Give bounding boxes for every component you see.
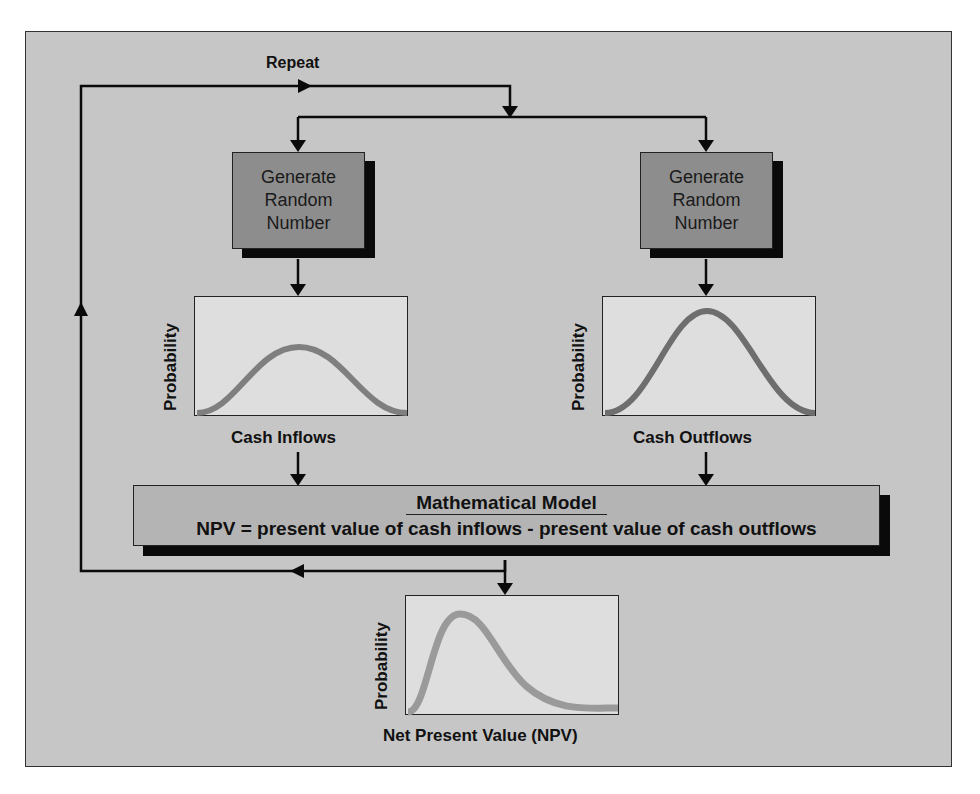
generator-line: Random [672, 189, 740, 212]
generate-random-number-box-outflows: Generate Random Number [640, 152, 773, 249]
normal-curve-icon [195, 297, 409, 417]
inflows-y-label: Probability [161, 323, 181, 411]
skewed-curve-icon [406, 596, 620, 716]
generator-line: Number [266, 212, 330, 235]
outflows-y-label: Probability [569, 323, 589, 411]
generator-line: Generate [669, 166, 744, 189]
repeat-label: Repeat [266, 54, 319, 72]
model-equation: NPV = present value of cash inflows - pr… [134, 517, 879, 541]
mathematical-model-box: Mathematical Model NPV = present value o… [133, 485, 880, 546]
generator-line: Generate [261, 166, 336, 189]
cash-outflows-distribution [602, 296, 816, 416]
outflows-x-label: Cash Outflows [633, 428, 752, 448]
npv-distribution [405, 595, 619, 715]
npv-x-label: Net Present Value (NPV) [383, 726, 578, 746]
npv-y-label: Probability [372, 622, 392, 710]
generator-line: Number [674, 212, 738, 235]
model-title: Mathematical Model [406, 492, 607, 515]
generate-random-number-box-inflows: Generate Random Number [232, 152, 365, 249]
cash-inflows-distribution [194, 296, 408, 416]
generator-line: Random [264, 189, 332, 212]
normal-curve-icon [603, 297, 817, 417]
inflows-x-label: Cash Inflows [231, 428, 336, 448]
